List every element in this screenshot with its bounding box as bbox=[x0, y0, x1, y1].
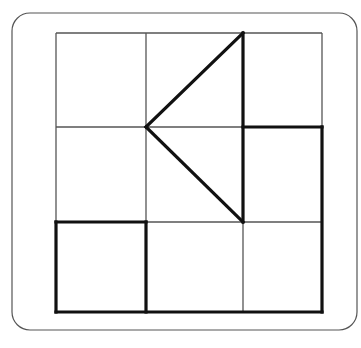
geometric-figure bbox=[0, 0, 361, 348]
drawing-canvas bbox=[0, 0, 361, 348]
canvas-background bbox=[0, 0, 361, 348]
